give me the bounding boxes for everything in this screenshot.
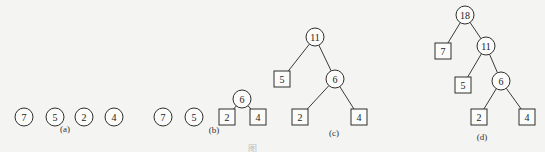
tree-edge: [506, 88, 521, 109]
panel-label: (c): [329, 128, 339, 138]
node-value: 4: [525, 112, 530, 123]
node-value: 18: [460, 10, 470, 21]
node-value: 4: [357, 112, 362, 123]
panel-c: 115624(c): [274, 28, 367, 138]
internal-node-6: 6: [326, 70, 344, 88]
huffman-tree-figure: 7524(a)75624(b)115624(c)187115624(d): [0, 0, 545, 152]
node-value: 6: [333, 74, 338, 85]
node-value: 11: [481, 41, 491, 52]
panel-b: 75624(b): [154, 90, 266, 135]
tree-edge: [319, 45, 331, 71]
leaf-node-2: 2: [471, 109, 487, 125]
tree-edge: [484, 89, 496, 109]
leaf-node-5: 5: [274, 71, 290, 87]
internal-node-11: 11: [477, 37, 495, 55]
node-value: 2: [477, 112, 482, 123]
internal-node-11: 11: [306, 28, 324, 46]
node-value: 5: [461, 80, 466, 91]
figure-caption: 图: [248, 142, 257, 152]
node-value: 7: [441, 46, 446, 57]
internal-node-18: 18: [456, 6, 474, 24]
panel-label: (d): [477, 132, 488, 142]
panel-d: 187115624(d): [435, 6, 535, 142]
node-value: 11: [310, 32, 320, 43]
panel-label: (a): [60, 124, 70, 134]
internal-node-6: 6: [233, 90, 251, 108]
internal-node-5: 5: [185, 108, 203, 126]
internal-node-6: 6: [492, 72, 510, 90]
internal-node-7: 7: [154, 108, 172, 126]
panels-layer: 7524(a)75624(b)115624(c)187115624(d): [15, 6, 535, 142]
node-value: 7: [22, 112, 27, 123]
node-value: 2: [298, 112, 303, 123]
node-value: 5: [192, 112, 197, 123]
tree-edge: [470, 22, 481, 38]
leaf-node-2: 2: [292, 109, 308, 125]
node-value: 5: [53, 112, 58, 123]
leaf-node-7: 7: [435, 43, 451, 59]
node-value: 2: [225, 112, 230, 123]
tree-edge: [288, 44, 309, 71]
panel-a: 7524(a): [15, 108, 123, 134]
internal-node-7: 7: [15, 108, 33, 126]
node-value: 6: [499, 76, 504, 87]
leaf-node-5: 5: [455, 77, 471, 93]
leaf-node-4: 4: [519, 109, 535, 125]
internal-node-4: 4: [105, 108, 123, 126]
leaf-node-4: 4: [351, 109, 367, 125]
tree-edge: [468, 54, 482, 77]
tree-edge: [490, 54, 498, 72]
leaf-node-4: 4: [250, 109, 266, 125]
node-value: 2: [82, 112, 87, 123]
node-value: 7: [161, 112, 166, 123]
node-value: 4: [256, 112, 261, 123]
node-value: 4: [112, 112, 117, 123]
leaf-node-2: 2: [219, 109, 235, 125]
tree-edge: [307, 86, 329, 109]
panel-label: (b): [209, 125, 220, 135]
internal-node-2: 2: [75, 108, 93, 126]
node-value: 6: [240, 94, 245, 105]
node-value: 5: [280, 74, 285, 85]
tree-edge: [448, 23, 460, 43]
tree-edge: [340, 87, 354, 109]
